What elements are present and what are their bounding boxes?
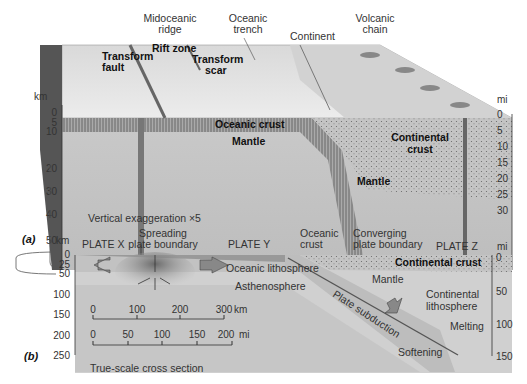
svg-text:150: 150 (496, 351, 513, 362)
label-plate-x: PLATE X (82, 238, 124, 250)
svg-text:150: 150 (53, 309, 70, 320)
svg-text:0: 0 (497, 109, 503, 120)
svg-text:200: 200 (218, 329, 235, 340)
svg-text:30: 30 (46, 186, 58, 197)
svg-text:100: 100 (53, 289, 70, 300)
svg-text:100: 100 (496, 319, 513, 330)
svg-text:25: 25 (497, 189, 509, 200)
svg-text:km: km (34, 91, 47, 102)
svg-text:km: km (234, 304, 247, 315)
panel-a-caption: Vertical exaggeration ×5 (88, 212, 201, 224)
label-softening: Softening (398, 346, 443, 358)
label-melting: Melting (450, 320, 484, 332)
panel-a-id: (a) (22, 233, 36, 245)
svg-text:150: 150 (189, 329, 206, 340)
label-oceanic-crust-a: Oceanic crust (215, 118, 285, 130)
svg-text:20: 20 (497, 173, 509, 184)
label-asthenosphere: Asthenosphere (235, 280, 306, 292)
svg-text:100: 100 (154, 329, 171, 340)
svg-text:30: 30 (497, 205, 509, 216)
label-continent: Continent (290, 30, 335, 42)
label-rift-zone: Rift zone (152, 42, 196, 54)
svg-text:50: 50 (59, 268, 71, 279)
label-volcanic-chain: Volcanicchain (355, 12, 394, 35)
svg-text:mi: mi (497, 241, 508, 252)
svg-text:0: 0 (90, 329, 96, 340)
label-oceanic-lithosphere: Oceanic lithosphere (226, 262, 319, 274)
label-oceanic-trench: Oceanictrench (229, 12, 268, 35)
svg-text:mi: mi (497, 94, 508, 105)
label-plate-z: PLATE Z (436, 240, 478, 252)
svg-text:10: 10 (46, 126, 58, 137)
label-mantle-a-left: Mantle (232, 135, 265, 147)
svg-text:50: 50 (122, 329, 134, 340)
svg-text:40: 40 (46, 209, 58, 220)
label-mantle-b: Mantle (372, 273, 404, 285)
svg-text:0: 0 (496, 252, 502, 263)
svg-text:0: 0 (90, 304, 96, 315)
svg-text:200: 200 (53, 330, 70, 341)
svg-text:200: 200 (172, 304, 189, 315)
svg-text:10: 10 (497, 141, 509, 152)
svg-text:15: 15 (497, 157, 509, 168)
svg-text:5: 5 (497, 125, 503, 136)
label-continental-lithosphere: Continentallithosphere (426, 288, 479, 312)
svg-text:250: 250 (53, 350, 70, 361)
svg-text:km: km (56, 235, 69, 246)
svg-text:300: 300 (216, 304, 233, 315)
panel-a-block (40, 45, 512, 270)
panel-b-id: (b) (24, 350, 38, 362)
plate-tectonics-diagram: Midoceanicridge Oceanictrench Continent … (0, 0, 527, 384)
panel-b-caption: True-scale cross section (90, 362, 204, 374)
label-midoceanic-ridge: Midoceanicridge (143, 12, 196, 35)
svg-text:50: 50 (496, 286, 508, 297)
label-plate-y: PLATE Y (228, 238, 270, 250)
svg-text:20: 20 (46, 163, 58, 174)
label-mantle-a-right: Mantle (357, 175, 390, 187)
svg-text:100: 100 (129, 304, 146, 315)
label-continental-crust-b: Continental crust (395, 256, 482, 268)
svg-text:mi: mi (239, 329, 250, 340)
